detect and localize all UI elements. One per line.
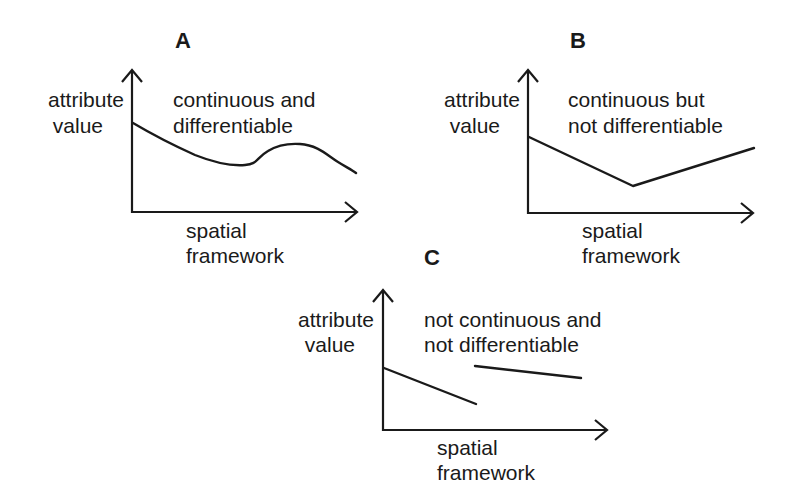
x-axis-label-line1: spatial (186, 219, 247, 242)
caption-line1: not continuous and (424, 308, 601, 331)
panel-b: B attribute value continuous but not dif… (444, 28, 754, 267)
y-axis-label-line1: attribute (48, 88, 124, 111)
panel-label-c: C (424, 245, 440, 270)
caption-line2: differentiable (173, 114, 293, 137)
caption-line2: not differentiable (424, 333, 579, 356)
x-axis-label-line1: spatial (437, 436, 498, 459)
x-axis-label-line2: framework (186, 244, 285, 267)
panel-label-a: A (175, 28, 191, 53)
caption-line2: not differentiable (568, 114, 723, 137)
x-axis-label-line1: spatial (582, 219, 643, 242)
y-axis-label-line1: attribute (298, 308, 374, 331)
segment-left (384, 368, 476, 404)
segment-right (475, 366, 581, 378)
y-axis-label-line2: value (53, 114, 103, 137)
caption-line1: continuous but (568, 88, 705, 111)
x-axis-label-line2: framework (582, 244, 681, 267)
y-axis-arrow (373, 290, 393, 431)
y-axis-arrow (122, 70, 142, 213)
y-axis-label-line2: value (450, 114, 500, 137)
continuity-diagram: A attribute value continuous and differe… (0, 0, 789, 501)
caption-line1: continuous and (173, 88, 315, 111)
panel-label-b: B (570, 28, 586, 53)
x-axis-label-line2: framework (437, 461, 536, 484)
panel-a: A attribute value continuous and differe… (48, 28, 357, 267)
y-axis-label-line2: value (305, 333, 355, 356)
panel-c: C attribute value not continuous and not… (298, 245, 607, 484)
y-axis-arrow (518, 70, 538, 214)
kinked-line (529, 137, 754, 186)
y-axis-label-line1: attribute (444, 88, 520, 111)
